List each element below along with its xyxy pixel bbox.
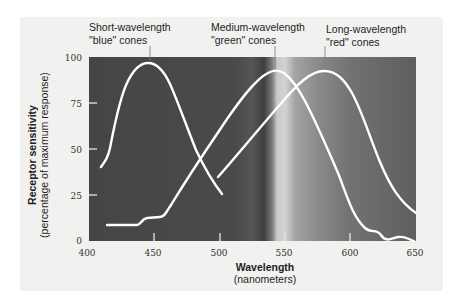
x-axis-title-sub: (nanometers) xyxy=(200,273,330,285)
y-tick-25: 25 xyxy=(62,191,82,201)
annotation-blue-line2: "blue" cones xyxy=(89,34,171,47)
annotation-green-line2: "green" cones xyxy=(211,34,305,47)
annotation-green-line1: Medium-wavelength xyxy=(211,21,305,34)
y-tick-100: 100 xyxy=(62,53,82,63)
annotation-blue-line1: Short-wavelength xyxy=(89,21,171,34)
annotation-red-line2: "red" cones xyxy=(326,36,406,49)
x-axis-title: Wavelength (nanometers) xyxy=(200,261,330,285)
x-tick-600: 600 xyxy=(335,248,365,258)
y-axis-title-sub: (percentage of maximum response) xyxy=(38,70,50,240)
x-tick-650: 650 xyxy=(400,248,430,258)
annotation-green-cones: Medium-wavelength "green" cones xyxy=(211,21,305,46)
annotation-red-cones: Long-wavelength "red" cones xyxy=(326,23,406,48)
y-tick-0: 0 xyxy=(62,236,82,246)
x-axis-title-main: Wavelength xyxy=(200,261,330,273)
y-axis-title-main: Receptor sensitivity xyxy=(26,70,38,240)
annotation-red-line1: Long-wavelength xyxy=(326,23,406,36)
x-tick-500: 500 xyxy=(204,248,234,258)
y-tick-75: 75 xyxy=(62,99,82,109)
annotation-blue-cones: Short-wavelength "blue" cones xyxy=(89,21,171,46)
y-axis-title: Receptor sensitivity (percentage of maxi… xyxy=(26,70,50,240)
x-tick-450: 450 xyxy=(138,248,168,258)
y-tick-50: 50 xyxy=(62,145,82,155)
x-tick-400: 400 xyxy=(72,248,102,258)
x-tick-550: 550 xyxy=(269,248,299,258)
